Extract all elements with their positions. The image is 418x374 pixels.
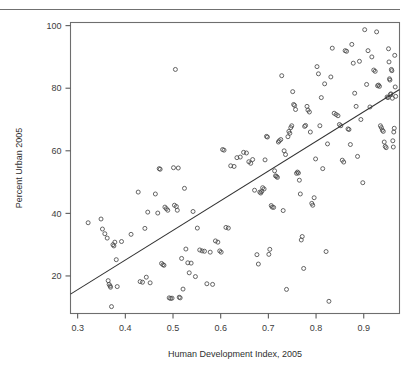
y-axis-ticks: 20406080100	[46, 21, 70, 281]
data-point	[255, 253, 259, 257]
data-point	[361, 181, 365, 185]
x-tick-label: 0.5	[167, 323, 180, 333]
data-point	[304, 123, 308, 127]
data-point	[330, 46, 334, 50]
data-point	[280, 74, 284, 78]
data-point	[143, 226, 147, 230]
data-point	[387, 47, 391, 51]
data-point	[120, 240, 124, 244]
x-tick-label: 0.3	[71, 323, 84, 333]
data-point	[393, 85, 397, 89]
data-point	[394, 94, 398, 98]
y-tick-label: 60	[51, 146, 61, 156]
data-point	[156, 211, 160, 215]
data-point	[148, 281, 152, 285]
x-axis-ticks: 0.30.40.50.60.70.80.9	[71, 314, 370, 333]
data-point	[308, 130, 312, 134]
data-point	[387, 60, 391, 64]
data-point	[281, 209, 285, 213]
x-tick-label: 0.9	[357, 323, 370, 333]
data-point	[141, 280, 145, 284]
data-point	[356, 154, 360, 158]
data-point	[321, 167, 325, 171]
data-point	[370, 55, 374, 59]
y-tick-label: 20	[51, 271, 61, 281]
data-point	[176, 166, 180, 170]
y-tick-label: 80	[51, 83, 61, 93]
data-point	[211, 282, 215, 286]
data-point	[193, 275, 197, 279]
data-point	[353, 91, 357, 95]
data-point	[285, 287, 289, 291]
data-point	[393, 53, 397, 57]
data-point	[319, 96, 323, 100]
data-point	[323, 82, 327, 86]
data-point	[205, 282, 209, 286]
x-tick-label: 0.8	[310, 323, 323, 333]
data-point	[354, 104, 358, 108]
data-point	[391, 139, 395, 143]
data-point	[284, 153, 288, 157]
data-point	[251, 158, 255, 162]
data-point	[366, 49, 370, 53]
data-point	[291, 90, 295, 94]
data-point	[294, 107, 298, 111]
data-point	[253, 188, 257, 192]
data-point	[110, 305, 114, 309]
data-point	[171, 166, 175, 170]
data-point	[181, 287, 185, 291]
data-point	[208, 250, 212, 254]
x-axis-title: Human Development Index, 2005	[168, 349, 302, 359]
data-point	[326, 142, 330, 146]
data-point	[365, 82, 369, 86]
data-point	[350, 42, 354, 46]
data-point	[298, 192, 302, 196]
data-point	[191, 209, 195, 213]
data-point	[268, 247, 272, 251]
data-point	[86, 221, 90, 225]
regression-line	[71, 89, 400, 294]
data-point	[297, 178, 301, 182]
data-points	[86, 28, 398, 309]
data-point	[302, 266, 306, 270]
data-point	[293, 103, 297, 107]
data-point	[348, 143, 352, 147]
data-point	[226, 226, 230, 230]
chart-canvas: 20406080100 0.30.40.50.60.70.80.9 Human …	[0, 0, 418, 374]
data-point	[187, 271, 191, 275]
data-point	[314, 157, 318, 161]
data-point	[267, 252, 271, 256]
scatter-plot-figure: 20406080100 0.30.40.50.60.70.80.9 Human …	[0, 0, 418, 374]
data-point	[114, 258, 118, 262]
data-point	[329, 75, 333, 79]
data-point	[173, 67, 177, 71]
data-point	[273, 169, 277, 173]
data-point	[115, 285, 119, 289]
figure-page: 20406080100 0.30.40.50.60.70.80.9 Human …	[0, 0, 418, 374]
data-point	[324, 250, 328, 254]
data-point	[146, 210, 150, 214]
y-tick-label: 100	[46, 21, 61, 31]
data-point	[153, 192, 157, 196]
data-point	[351, 61, 355, 65]
data-point	[391, 145, 395, 149]
y-axis-title: Percent Urban 2005	[14, 128, 24, 209]
data-point	[195, 226, 199, 230]
data-point	[363, 28, 367, 32]
data-point	[103, 232, 107, 236]
data-point	[180, 256, 184, 260]
data-point	[359, 118, 363, 122]
data-point	[182, 186, 186, 190]
data-point	[316, 72, 320, 76]
data-point	[129, 232, 133, 236]
data-point	[256, 262, 260, 266]
data-point	[318, 124, 322, 128]
data-point	[357, 59, 361, 63]
data-point	[315, 65, 319, 69]
data-point	[136, 190, 140, 194]
data-point	[312, 196, 316, 200]
data-point	[105, 236, 109, 240]
data-point	[327, 299, 331, 303]
x-tick-label: 0.6	[214, 323, 227, 333]
data-point	[184, 247, 188, 251]
